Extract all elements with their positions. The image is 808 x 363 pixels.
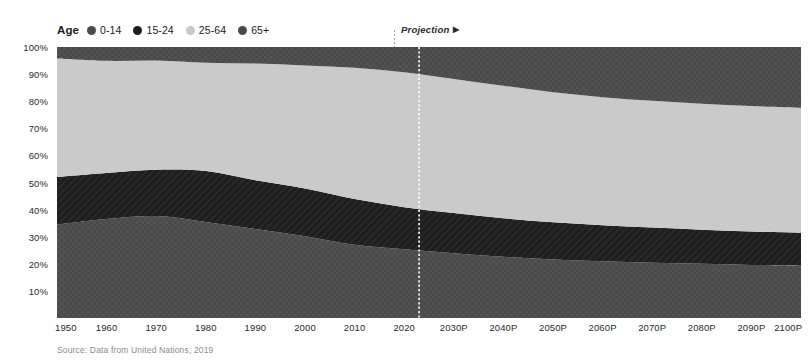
legend-swatch-icon [133, 26, 142, 35]
x-axis: 195019601970198019902000201020202030P204… [0, 322, 808, 340]
stacked-area-chart [57, 47, 801, 318]
x-axis-tick-label: 2050P [539, 322, 567, 333]
legend-item-label: 65+ [251, 24, 269, 36]
x-axis-tick-label: 1980 [195, 322, 217, 333]
legend-item-65-plus[interactable]: 65+ [238, 24, 269, 36]
y-axis: 10%20%30%40%50%60%70%80%90%100% [0, 40, 53, 325]
legend-item-label: 15-24 [146, 24, 173, 36]
x-axis-tick-label: 1990 [245, 322, 267, 333]
legend-item-label: 0-14 [100, 24, 121, 36]
y-axis-tick-label: 100% [23, 42, 48, 53]
x-axis-tick-label: 2060P [589, 322, 617, 333]
y-axis-tick-label: 50% [29, 177, 48, 188]
y-axis-tick-label: 70% [29, 123, 48, 134]
triangle-right-icon: ▶ [453, 26, 459, 34]
legend-title: Age [57, 24, 79, 36]
y-axis-tick-label: 80% [29, 96, 48, 107]
legend-swatch-icon [87, 26, 96, 35]
projection-divider-tick [394, 30, 395, 47]
y-axis-tick-label: 40% [29, 204, 48, 215]
y-axis-tick-label: 30% [29, 231, 48, 242]
x-axis-tick-label: 2000 [294, 322, 316, 333]
legend-swatch-icon [238, 26, 247, 35]
x-axis-tick-label: 1960 [96, 322, 118, 333]
y-axis-tick-label: 10% [29, 285, 48, 296]
y-axis-tick-label: 60% [29, 150, 48, 161]
x-axis-tick-label: 2040P [489, 322, 517, 333]
x-axis-tick-label: 2080P [688, 322, 716, 333]
y-axis-tick-label: 90% [29, 69, 48, 80]
texture-overlay [57, 47, 801, 318]
x-axis-tick-label: 1950 [55, 322, 77, 333]
x-axis-tick-label: 2010 [344, 322, 366, 333]
x-axis-tick-label: 2030P [440, 322, 468, 333]
x-axis-tick-label: 2070P [638, 322, 666, 333]
x-axis-tick-label: 2090P [737, 322, 765, 333]
x-axis-tick-label: 2100P [774, 322, 802, 333]
legend-item-15-24[interactable]: 15-24 [133, 24, 173, 36]
projection-label-text: Projection [401, 24, 449, 35]
source-note: Source: Data from United Nations, 2019 [57, 345, 213, 355]
x-axis-tick-label: 1970 [145, 322, 167, 333]
x-axis-tick-label: 2020 [393, 322, 415, 333]
legend-item-label: 25-64 [199, 24, 226, 36]
legend-item-25-64[interactable]: 25-64 [186, 24, 226, 36]
chart-legend: Age 0-14 15-24 25-64 65+ [57, 23, 275, 37]
y-axis-tick-label: 20% [29, 258, 48, 269]
plot-area [57, 47, 801, 318]
chart-root: Age 0-14 15-24 25-64 65+ Projection ▶ 10… [0, 0, 808, 363]
projection-annotation: Projection ▶ [401, 24, 460, 35]
legend-item-0-14[interactable]: 0-14 [87, 24, 121, 36]
legend-swatch-icon [186, 26, 195, 35]
